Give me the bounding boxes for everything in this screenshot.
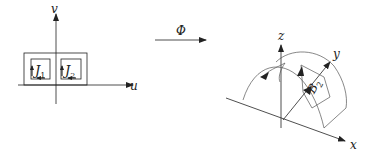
uv-plane: u v J1 J2 [18, 2, 138, 104]
mapping-diagram: u v J1 J2 Φ x z y [0, 0, 376, 153]
x-axis-label: x [350, 138, 357, 152]
region-j2: J2 [61, 59, 81, 80]
z-axis-label: z [277, 29, 285, 43]
v-axis-label: v [51, 2, 58, 16]
mapping-label: Φ [176, 24, 186, 38]
u-axis-label: u [130, 79, 138, 93]
y-axis-label: y [332, 47, 340, 61]
surface-edge [324, 108, 346, 128]
region-j2-label: J2 [62, 63, 75, 80]
orientation-arrow-icon [297, 66, 304, 76]
outer-rectangle [24, 53, 87, 85]
region-j1: J1 [31, 59, 50, 80]
orientation-arrow-icon [260, 72, 269, 80]
mapping-arrow: Φ [155, 24, 206, 40]
surface-3d: x z y B2 [226, 29, 357, 152]
region-j1-label: J1 [32, 63, 45, 80]
region-b2-label: B2 [304, 77, 325, 98]
x-axis [226, 98, 345, 141]
